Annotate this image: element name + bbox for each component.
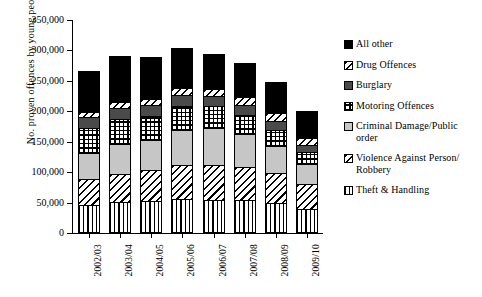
- bar-segment: [171, 106, 193, 130]
- legend-item-motoring-offences[interactable]: Motoring Offences: [344, 100, 476, 112]
- bar-segment: [203, 106, 225, 127]
- bar-segment: [140, 140, 162, 170]
- x-tick-label: 2004/05: [155, 244, 165, 277]
- legend-swatch-icon: [344, 154, 353, 163]
- bar-segment: [234, 115, 256, 134]
- bar-segment: [171, 199, 193, 233]
- y-tick-mark: [67, 111, 72, 112]
- bar-segment: [203, 96, 225, 106]
- bar-2003-04[interactable]: [109, 56, 131, 233]
- bar-segment: [171, 88, 193, 95]
- bar-segment: [109, 56, 131, 102]
- x-tick-label: 2008/09: [280, 244, 290, 277]
- legend-swatch-icon: [344, 61, 353, 70]
- y-tick-mark: [67, 203, 72, 204]
- legend-swatch-icon: [344, 186, 353, 195]
- legend-swatch-icon: [344, 81, 353, 90]
- x-tick-label: 2007/08: [249, 244, 259, 277]
- legend-item-all-other[interactable]: All other: [344, 38, 476, 50]
- bar-segment: [203, 128, 225, 165]
- bar-segment: [296, 152, 318, 164]
- bar-segment: [140, 99, 162, 106]
- y-tick-label: 300,000: [32, 45, 65, 55]
- legend-label: Burglary: [356, 79, 392, 91]
- bar-segment: [265, 113, 287, 122]
- bar-2007-08[interactable]: [234, 63, 256, 233]
- y-tick-label: 250,000: [32, 76, 65, 86]
- y-tick-label: 0: [59, 228, 64, 238]
- bar-2008-09[interactable]: [265, 82, 287, 233]
- y-tick-label: 200,000: [32, 106, 65, 116]
- legend-item-violence-against-person-robbery[interactable]: Violence Against Person/ Robbery: [344, 152, 476, 175]
- bar-segment: [296, 145, 318, 152]
- y-axis-line: [72, 20, 73, 234]
- legend-swatch-icon: [344, 102, 353, 111]
- bar-segment: [78, 153, 100, 179]
- x-tick-mark: [276, 233, 277, 238]
- bar-segment: [109, 108, 131, 118]
- bar-segment: [234, 105, 256, 115]
- y-tick-label: 100,000: [32, 167, 65, 177]
- x-tick-label: 2002/03: [93, 244, 103, 277]
- legend-item-criminal-damage-public-order[interactable]: Criminal Damage/Public order: [344, 120, 476, 143]
- bar-segment: [296, 209, 318, 233]
- bar-2004-05[interactable]: [140, 57, 162, 233]
- y-tick-mark: [67, 172, 72, 173]
- bar-segment: [171, 165, 193, 198]
- x-tick-mark: [214, 233, 215, 238]
- bar-segment: [140, 57, 162, 98]
- legend-label: Violence Against Person/ Robbery: [356, 152, 476, 175]
- bar-segment: [203, 200, 225, 233]
- bar-segment: [234, 167, 256, 200]
- y-tick-mark: [67, 20, 72, 21]
- legend-item-theft-handling[interactable]: Theft & Handling: [344, 184, 476, 196]
- bar-2002-03[interactable]: [78, 71, 100, 233]
- bar-segment: [265, 121, 287, 130]
- bar-2006-07[interactable]: [203, 54, 225, 234]
- bar-segment: [171, 130, 193, 165]
- bar-segment: [234, 134, 256, 167]
- bar-segment: [78, 179, 100, 205]
- y-tick-mark: [67, 233, 72, 234]
- legend-label: All other: [356, 38, 393, 50]
- legend-item-drug-offences[interactable]: Drug Offences: [344, 59, 476, 71]
- plot-area: 050,000100,000150,000200,000250,000300,0…: [72, 20, 322, 233]
- bar-segment: [109, 174, 131, 202]
- bar-2005-06[interactable]: [171, 48, 193, 233]
- legend-label: Motoring Offences: [356, 100, 434, 112]
- bar-segment: [234, 97, 256, 105]
- bar-segment: [296, 164, 318, 185]
- bar-segment: [265, 130, 287, 146]
- x-axis-line: [72, 233, 323, 234]
- bar-segment: [109, 119, 131, 145]
- bar-segment: [78, 117, 100, 127]
- bar-segment: [78, 71, 100, 112]
- bar-2009-10[interactable]: [296, 111, 318, 233]
- bar-segment: [171, 48, 193, 88]
- bar-segment: [265, 203, 287, 233]
- x-tick-label: 2006/07: [218, 244, 228, 277]
- bar-segment: [109, 144, 131, 174]
- y-tick-label: 350,000: [32, 15, 65, 25]
- y-tick-mark: [67, 142, 72, 143]
- bar-segment: [234, 63, 256, 97]
- chart-legend: All otherDrug OffencesBurglaryMotoring O…: [344, 38, 476, 205]
- bar-segment: [171, 95, 193, 106]
- bar-segment: [140, 201, 162, 233]
- x-tick-mark: [182, 233, 183, 238]
- legend-label: Criminal Damage/Public order: [356, 120, 476, 143]
- bar-segment: [203, 54, 225, 89]
- bar-segment: [296, 184, 318, 209]
- bar-segment: [296, 111, 318, 138]
- bar-segment: [78, 128, 100, 154]
- chart-container: No. proven offences by young people 050,…: [0, 0, 482, 297]
- x-tick-mark: [245, 233, 246, 238]
- x-tick-label: 2009/10: [311, 244, 321, 277]
- bar-segment: [265, 173, 287, 203]
- bar-segment: [203, 165, 225, 200]
- y-tick-label: 150,000: [32, 137, 65, 147]
- legend-label: Theft & Handling: [356, 184, 429, 196]
- legend-swatch-icon: [344, 122, 353, 131]
- bar-segment: [265, 82, 287, 112]
- legend-item-burglary[interactable]: Burglary: [344, 79, 476, 91]
